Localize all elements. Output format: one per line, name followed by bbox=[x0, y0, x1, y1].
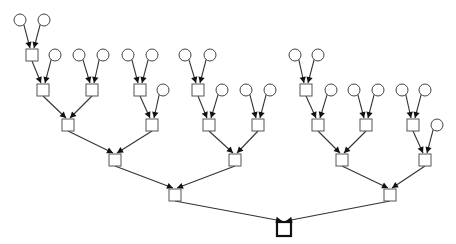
arrowhead-icon bbox=[117, 147, 124, 153]
leaf-circle-node bbox=[216, 84, 228, 96]
square-node bbox=[384, 189, 396, 201]
square-node bbox=[86, 84, 98, 96]
arrowhead-icon bbox=[92, 76, 98, 83]
leaf-circle-node bbox=[179, 49, 191, 61]
arrowhead-icon bbox=[392, 182, 399, 188]
square-node bbox=[203, 119, 215, 131]
leaf-circle-node bbox=[14, 14, 26, 26]
arrowhead-icon bbox=[251, 111, 257, 118]
square-node bbox=[360, 119, 372, 131]
leaf-circle-node bbox=[204, 49, 216, 61]
arrowhead-icon bbox=[319, 111, 325, 118]
arrowhead-icon bbox=[413, 111, 419, 118]
square-node bbox=[407, 119, 419, 131]
leaf-circle-node bbox=[396, 84, 408, 96]
square-node bbox=[169, 189, 181, 201]
edge bbox=[342, 166, 388, 188]
arrowhead-icon bbox=[25, 41, 31, 48]
arrowhead-icon bbox=[43, 76, 49, 83]
arrowhead-icon bbox=[198, 76, 204, 83]
merge-tree-diagram bbox=[0, 0, 456, 244]
arrowhead-icon bbox=[258, 111, 264, 118]
leaf-circle-node bbox=[264, 84, 276, 96]
arrowhead-icon bbox=[32, 41, 38, 48]
arrowhead-icon bbox=[133, 76, 139, 83]
square-node bbox=[312, 119, 324, 131]
square-node bbox=[109, 154, 121, 166]
arrowhead-icon bbox=[306, 76, 312, 83]
square-node bbox=[229, 154, 241, 166]
arrowhead-icon bbox=[191, 76, 197, 83]
leaf-circle-node bbox=[157, 84, 169, 96]
leaf-circle-node bbox=[73, 49, 85, 61]
arrowheads-layer bbox=[25, 41, 431, 223]
arrowhead-icon bbox=[425, 146, 431, 153]
leaf-circle-node bbox=[372, 84, 384, 96]
leaf-circle-node bbox=[431, 119, 443, 131]
leaf-circle-node bbox=[38, 14, 50, 26]
root-square-node bbox=[277, 222, 291, 236]
square-node bbox=[336, 154, 348, 166]
leaf-circle-node bbox=[146, 49, 158, 61]
square-node bbox=[252, 119, 264, 131]
leaf-circle-node bbox=[49, 49, 61, 61]
arrowhead-icon bbox=[300, 76, 306, 83]
leaf-circle-node bbox=[240, 84, 252, 96]
square-node bbox=[300, 84, 312, 96]
leaf-circle-node bbox=[325, 84, 337, 96]
edge bbox=[177, 166, 235, 188]
leaf-circle-node bbox=[312, 49, 324, 61]
leaf-circle-node bbox=[419, 84, 431, 96]
square-node bbox=[192, 84, 204, 96]
square-node bbox=[26, 49, 38, 61]
edge bbox=[115, 166, 173, 188]
arrowhead-icon bbox=[140, 76, 146, 83]
square-node bbox=[146, 119, 158, 131]
square-node bbox=[37, 84, 49, 96]
square-node bbox=[62, 119, 74, 131]
edge bbox=[117, 131, 152, 153]
square-node bbox=[134, 84, 146, 96]
arrowhead-icon bbox=[359, 111, 365, 118]
arrowhead-icon bbox=[407, 111, 413, 118]
arrowhead-icon bbox=[366, 111, 372, 118]
edge bbox=[286, 201, 390, 221]
leaf-circle-node bbox=[289, 49, 301, 61]
arrowhead-icon bbox=[85, 76, 91, 83]
leaf-circle-node bbox=[97, 49, 109, 61]
edge bbox=[175, 201, 282, 221]
square-node bbox=[419, 154, 431, 166]
leaf-circle-node bbox=[122, 49, 134, 61]
arrowhead-icon bbox=[210, 111, 216, 118]
arrowhead-icon bbox=[152, 111, 158, 118]
leaf-circle-node bbox=[348, 84, 360, 96]
edge bbox=[68, 131, 113, 153]
